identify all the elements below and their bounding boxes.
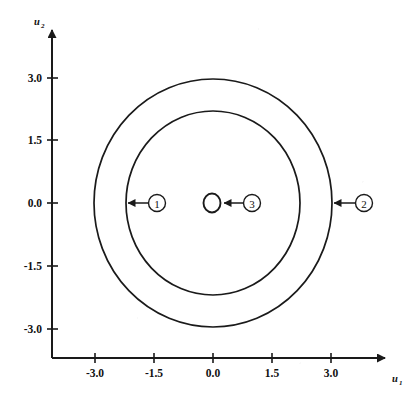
callout-2-label: 2 <box>361 198 367 210</box>
y-tick-label--1.5: -1.5 <box>24 260 42 272</box>
figure-canvas: 3.0 1.5 0.0 -1.5 -3.0 -3.0 -1.5 0.0 1.5 … <box>0 0 417 413</box>
y-axis-label: u <box>34 16 40 27</box>
x-tick-label-3.0: 3.0 <box>324 367 339 379</box>
y-tick-label-1.5: 1.5 <box>28 134 43 146</box>
callout-2: 2 <box>334 195 373 212</box>
callout-1: 1 <box>128 195 166 212</box>
y-tick-label-3.0: 3.0 <box>28 72 43 84</box>
callout-3-label: 3 <box>249 198 255 210</box>
inner-circle <box>126 111 300 295</box>
callout-3: 3 <box>224 195 261 212</box>
x-tick-group: -3.0 -1.5 0.0 1.5 3.0 <box>86 353 339 379</box>
x-tick-label-1.5: 1.5 <box>265 367 280 379</box>
origin-circle <box>204 194 221 213</box>
x-axis-label: u <box>392 373 398 384</box>
y-axis-label-subscript: 2 <box>40 22 45 30</box>
x-tick-label-0.0: 0.0 <box>206 367 221 379</box>
y-tick-label--3.0: -3.0 <box>24 323 42 335</box>
x-axis-label-subscript: 1 <box>399 379 403 387</box>
callout-1-label: 1 <box>154 198 160 210</box>
plot-svg: 3.0 1.5 0.0 -1.5 -3.0 -3.0 -1.5 0.0 1.5 … <box>0 0 417 413</box>
axis-label-group: u 2 u 1 <box>34 16 403 387</box>
x-tick-label--1.5: -1.5 <box>145 367 163 379</box>
x-tick-label--3.0: -3.0 <box>86 367 104 379</box>
y-tick-label-0.0: 0.0 <box>28 197 43 209</box>
